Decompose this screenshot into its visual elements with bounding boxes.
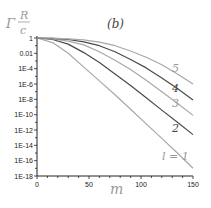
- series-label: 4: [171, 82, 179, 95]
- axes: 10.011E-41E-61E-81E-101E-121E-141E-161E-…: [14, 35, 199, 189]
- y-tick-label: 1E-8: [18, 96, 33, 103]
- x-axis-label: m: [110, 181, 123, 197]
- series-label: 5: [172, 62, 179, 75]
- y-tick-label: 1E-16: [14, 157, 33, 164]
- x-tick-label: 0: [35, 181, 39, 188]
- y-tick-label: 0.01: [19, 50, 33, 57]
- y-tick-label: 1E-10: [14, 111, 33, 118]
- panel-label: (b): [107, 17, 124, 31]
- y-tick-label: 1E-4: [18, 65, 33, 72]
- ylabel-numerator: R: [19, 9, 28, 22]
- series-line-2: [37, 38, 193, 135]
- curve-labels: l = 12345: [162, 62, 189, 163]
- series-line-3: [37, 38, 193, 115]
- y-tick-label: 1E-6: [18, 81, 33, 88]
- series-line-5: [37, 38, 193, 84]
- y-axis-label: Γ R c: [5, 9, 30, 37]
- x-tick-label: 100: [135, 181, 147, 188]
- y-tick-label: 1E-14: [14, 142, 33, 149]
- curves: [37, 38, 193, 168]
- series-label: l = 1: [162, 150, 189, 163]
- ylabel-prefix: Γ: [5, 16, 16, 31]
- series-label: 3: [172, 97, 179, 110]
- x-tick-label: 150: [187, 181, 199, 188]
- ylabel-denominator: c: [20, 24, 26, 37]
- decay-chart: Γ R c (b) 10.011E-41E-61E-81E-101E-121E-…: [0, 0, 211, 208]
- y-tick-label: 1: [29, 35, 33, 42]
- x-tick-label: 50: [85, 181, 93, 188]
- series-label: 2: [171, 122, 179, 135]
- series-line-l1: [37, 38, 193, 168]
- y-tick-label: 1E-18: [14, 173, 33, 180]
- y-tick-label: 1E-12: [14, 127, 33, 134]
